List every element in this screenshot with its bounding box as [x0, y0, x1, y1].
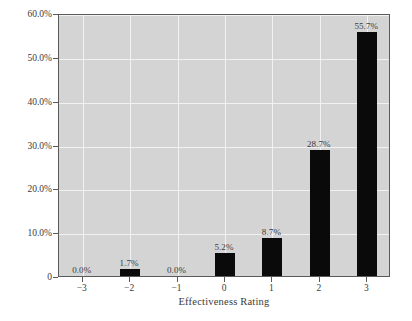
y-axis-tick-mark: [53, 146, 58, 147]
x-axis-tick-label: 1: [269, 283, 274, 293]
gridline-vertical: [83, 15, 84, 276]
bar-value-label: 8.7%: [262, 227, 281, 237]
gridline-vertical: [130, 15, 131, 276]
x-axis-tick-mark: [129, 277, 130, 282]
y-axis-tick-mark: [53, 189, 58, 190]
y-axis-tick-label: 10.0%: [0, 228, 52, 238]
bar-chart: 0.0%1.7%0.0%5.2%8.7%28.7%55.7% 010.0%20.…: [0, 0, 412, 321]
gridline-horizontal: [59, 15, 389, 16]
gridline-horizontal: [59, 190, 389, 191]
x-axis-tick-mark: [82, 277, 83, 282]
bar-value-label: 0.0%: [167, 265, 186, 275]
x-axis-tick-label: −3: [77, 283, 87, 293]
y-axis-tick-mark: [53, 58, 58, 59]
bar: [262, 238, 282, 276]
gridline-horizontal: [59, 59, 389, 60]
bar-value-label: 5.2%: [214, 242, 233, 252]
bar-value-label: 55.7%: [354, 21, 378, 31]
x-axis-tick-label: 2: [316, 283, 321, 293]
x-axis-tick-mark: [271, 277, 272, 282]
y-axis-tick-mark: [53, 277, 58, 278]
y-axis-tick-label: 60.0%: [0, 9, 52, 19]
x-axis-tick-mark: [366, 277, 367, 282]
y-axis-tick-label: 50.0%: [0, 53, 52, 63]
plot-area: [58, 14, 390, 277]
bar: [310, 150, 330, 276]
bar-value-label: 0.0%: [72, 265, 91, 275]
bar-value-label: 1.7%: [120, 258, 139, 268]
x-axis-title: Effectiveness Rating: [58, 296, 390, 307]
y-axis-tick-mark: [53, 14, 58, 15]
x-axis-tick-label: 3: [364, 283, 369, 293]
gridline-horizontal: [59, 234, 389, 235]
y-axis-tick-label: 0: [0, 272, 52, 282]
bar: [120, 269, 140, 276]
bar: [357, 32, 377, 276]
y-axis-tick-mark: [53, 102, 58, 103]
x-axis-tick-label: −1: [172, 283, 182, 293]
gridline-horizontal: [59, 103, 389, 104]
y-axis-tick-label: 40.0%: [0, 97, 52, 107]
x-axis-tick-label: 0: [222, 283, 227, 293]
bar: [215, 253, 235, 276]
y-axis-tick-mark: [53, 233, 58, 234]
y-axis-tick-label: 20.0%: [0, 184, 52, 194]
x-axis-tick-mark: [224, 277, 225, 282]
x-axis-tick-mark: [177, 277, 178, 282]
x-axis-tick-label: −2: [124, 283, 134, 293]
gridline-vertical: [225, 15, 226, 276]
gridline-horizontal: [59, 147, 389, 148]
bar-value-label: 28.7%: [307, 139, 331, 149]
x-axis-tick-mark: [319, 277, 320, 282]
y-axis-tick-label: 30.0%: [0, 141, 52, 151]
gridline-vertical: [178, 15, 179, 276]
